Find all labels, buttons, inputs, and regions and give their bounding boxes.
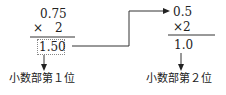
left-down-arrow-icon xyxy=(41,64,47,71)
right-multiplier: 2 xyxy=(183,21,191,33)
right-down-arrow-icon xyxy=(178,64,184,71)
left-times-sign: × xyxy=(33,22,43,34)
connector-arrowhead-icon xyxy=(163,8,170,14)
left-label: 小数部第１位 xyxy=(9,73,75,85)
right-product: 1.0 xyxy=(174,39,193,51)
left-multiplicand: 0.75 xyxy=(40,8,67,20)
right-times-sign: × xyxy=(173,21,183,33)
left-product: 1.50 xyxy=(39,41,66,53)
right-label: 小数部第２位 xyxy=(146,73,212,85)
right-multiplicand: 0.5 xyxy=(173,6,192,18)
left-multiplier: 2 xyxy=(55,22,63,34)
carry-connector xyxy=(72,11,164,46)
